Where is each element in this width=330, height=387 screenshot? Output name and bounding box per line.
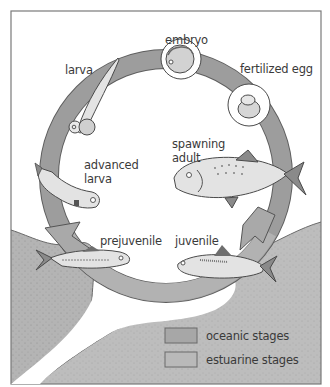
label-advanced-larva-line2: larva [84,172,112,186]
label-juvenile: juvenile [175,234,219,248]
legend-label-oceanic: oceanic stages [206,329,289,343]
legend-swatch-estuarine [165,352,197,367]
legend-label-estuarine: estuarine stages [206,353,299,367]
legend-swatch-oceanic [165,328,197,343]
fertilized-egg-illustration [228,84,270,126]
label-spawning-adult-line2: adult [172,151,200,165]
label-prejuvenile: prejuvenile [100,234,162,248]
label-embryo: embryo [165,33,208,47]
label-advanced-larva-line1: advanced [84,158,139,172]
label-larva: larva [65,63,93,77]
life-cycle-diagram: embryo fertilized egg spawning adult juv… [0,0,330,387]
label-spawning-adult-line1: spawning [172,137,225,151]
label-fertilized-egg: fertilized egg [240,62,313,76]
